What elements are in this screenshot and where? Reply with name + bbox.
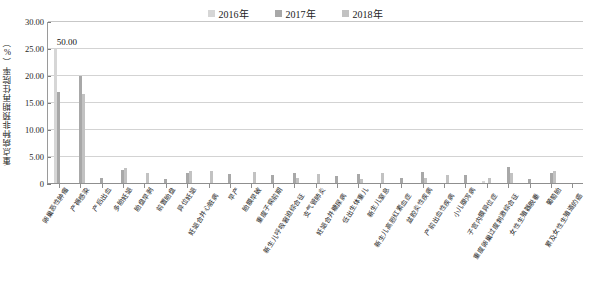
- x-tick-label: 小儿腹泻病: [453, 186, 477, 219]
- bar-group[interactable]: [498, 22, 519, 184]
- bar-group[interactable]: [369, 22, 390, 184]
- legend-item-2018[interactable]: 2018年: [342, 6, 383, 21]
- legend-swatch-2017: [275, 10, 282, 17]
- bar-2017年[interactable]: [57, 92, 60, 184]
- bar-group[interactable]: [412, 22, 433, 184]
- bar-group[interactable]: [305, 22, 326, 184]
- x-tick-label: 盆腔炎性疾病: [406, 186, 434, 225]
- legend-label-2016: 2016年: [219, 6, 249, 21]
- x-tick-label: 支气管肺炎: [302, 186, 326, 219]
- x-axis-labels: 卵巢恶性肿瘤产褥感染产后出血多胎妊娠胎盘早剥前置胎盘异位妊娠妊娠合并心脏病早产胎…: [47, 184, 583, 283]
- x-tick-label: 卵巢恶性肿瘤: [41, 186, 69, 225]
- y-tick-label: 10.00: [0, 125, 44, 135]
- bar-group[interactable]: [391, 22, 412, 184]
- bar-group[interactable]: [91, 22, 112, 184]
- bar-group[interactable]: [433, 22, 454, 184]
- bar-2018年[interactable]: [189, 171, 192, 185]
- x-tick-label: 妊娠合并糖尿病: [316, 192, 348, 237]
- bar-group[interactable]: [455, 22, 476, 184]
- bar-group[interactable]: [198, 22, 219, 184]
- legend-swatch-2018: [342, 10, 349, 17]
- x-tick-label: 多胎妊娠: [113, 186, 133, 213]
- legend-label-2017: 2017年: [286, 6, 316, 21]
- x-tick-label: 胎膜早破: [242, 186, 262, 213]
- plot-area: 50.00: [47, 22, 583, 184]
- y-tick-label: 5.00: [0, 152, 44, 162]
- legend-item-2016[interactable]: 2016年: [208, 6, 249, 21]
- bar-group[interactable]: [112, 22, 133, 184]
- bar-group[interactable]: [155, 22, 176, 184]
- bar-group[interactable]: [134, 22, 155, 184]
- y-tick-label: 0: [0, 179, 44, 189]
- x-tick-label: 胎盘早剥: [135, 186, 155, 213]
- chart-legend: 2016年 2017年 2018年: [0, 6, 590, 21]
- bar-group[interactable]: [348, 22, 369, 184]
- bar-group[interactable]: [519, 22, 540, 184]
- legend-item-2017[interactable]: 2017年: [275, 6, 316, 21]
- bar-2018年[interactable]: [82, 94, 85, 184]
- bar-group[interactable]: [241, 22, 262, 184]
- bar-group[interactable]: [326, 22, 347, 184]
- legend-swatch-2016: [208, 10, 215, 17]
- bar-2018年[interactable]: [124, 168, 127, 184]
- x-tick-label: 产褥感染: [70, 186, 90, 213]
- bar-group[interactable]: [219, 22, 240, 184]
- x-tick-label: 前置胎盘: [156, 186, 176, 213]
- bar-group[interactable]: [283, 22, 304, 184]
- x-tick-label: 产后出血: [92, 186, 112, 213]
- y-tick-label: 20.00: [0, 71, 44, 81]
- bar-group[interactable]: [476, 22, 497, 184]
- x-tick-label: 葡萄胎: [546, 186, 563, 207]
- y-tick-label: 25.00: [0, 44, 44, 54]
- x-tick-label: 新生儿窒息: [367, 186, 391, 219]
- chart-container: 2016年 2017年 2018年 重点病种非预期再住院率（%） 05.0010…: [0, 0, 590, 283]
- x-tick-label: 妊娠合并心脏病: [188, 192, 220, 237]
- bar-group[interactable]: [176, 22, 197, 184]
- y-tick-label: 30.00: [0, 17, 44, 27]
- bar-groups: [48, 22, 583, 184]
- bar-group[interactable]: [562, 22, 583, 184]
- x-tick-label: 低出生体重儿: [342, 186, 370, 225]
- x-tick-label: 早产: [228, 186, 241, 201]
- legend-label-2018: 2018年: [353, 6, 383, 21]
- y-tick-label: 15.00: [0, 98, 44, 108]
- data-label-peak: 50.00: [57, 37, 77, 47]
- bar-group[interactable]: [262, 22, 283, 184]
- bar-group[interactable]: [540, 22, 561, 184]
- x-tick-label: 异位妊娠: [178, 186, 198, 213]
